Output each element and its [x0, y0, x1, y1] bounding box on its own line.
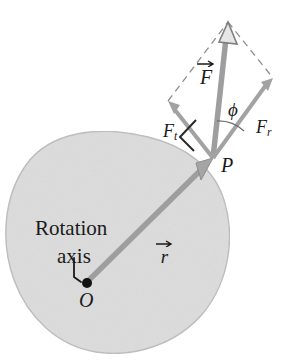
point-p-label: P [221, 155, 233, 175]
position-vector-arrow-icon [155, 240, 174, 247]
origin-dot [82, 278, 92, 288]
position-vector-label: r [155, 240, 174, 266]
radial-component-label: Fr [256, 118, 272, 139]
force-vector-arrow-icon [196, 60, 216, 67]
rotation-axis-label-line2: axis [57, 246, 91, 267]
force-vector-label: F [196, 60, 216, 87]
force-vector-F [213, 22, 237, 158]
origin-o-label: O [79, 290, 93, 310]
torque-diagram [0, 0, 305, 362]
tangential-component-label: Ft [163, 122, 177, 143]
angle-phi-label: ϕ [228, 100, 238, 119]
rotation-axis-label-line1: Rotation [35, 218, 107, 239]
